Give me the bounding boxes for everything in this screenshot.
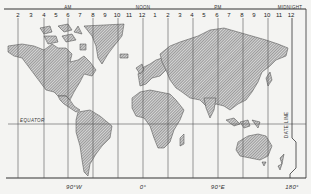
- longitude-label-180: 180°: [285, 184, 299, 190]
- india: [204, 98, 216, 118]
- tasmania: [262, 162, 266, 166]
- north-america: [8, 44, 96, 100]
- south-america: [76, 110, 112, 176]
- arctic-islands: [40, 24, 86, 50]
- hour-label: 9: [252, 12, 255, 18]
- hour-label: 4: [190, 12, 193, 18]
- date-line: [290, 18, 296, 178]
- hour-label: 8: [240, 12, 243, 18]
- madagascar: [180, 134, 184, 146]
- new-zealand: [278, 154, 284, 170]
- hour-label: 10: [114, 12, 121, 18]
- hour-label: 11: [126, 12, 132, 18]
- hour-label: 3: [29, 12, 32, 18]
- hour-label: 5: [54, 12, 57, 18]
- midnight-label: MIDNIGHT: [278, 5, 303, 10]
- asia: [160, 28, 288, 110]
- hour-label: 12: [139, 12, 146, 18]
- hour-label: 7: [227, 12, 230, 18]
- longitude-label-90e: 90°E: [211, 184, 225, 190]
- hour-label: 2: [166, 12, 169, 18]
- longitude-label-90w: 90°W: [66, 184, 82, 190]
- hour-label: 7: [78, 12, 81, 18]
- hour-label: 4: [42, 12, 45, 18]
- japan: [266, 72, 272, 86]
- hour-label: 6: [215, 12, 218, 18]
- hour-label: 8: [91, 12, 94, 18]
- hour-label: 11: [276, 12, 282, 18]
- hour-label: 3: [178, 12, 181, 18]
- date-line-label: DATE LINE: [284, 111, 289, 138]
- am-label: AM: [64, 5, 71, 10]
- equator-label: EQUATOR: [20, 118, 45, 123]
- world-map: [0, 0, 311, 194]
- hour-label: 5: [202, 12, 205, 18]
- hour-label: 1: [153, 12, 156, 18]
- hour-label: 10: [264, 12, 271, 18]
- land-masses: [8, 24, 288, 176]
- australia: [236, 134, 272, 160]
- pm-label: PM: [214, 5, 221, 10]
- africa: [132, 90, 184, 148]
- noon-label: NOON: [136, 5, 151, 10]
- hour-label: 9: [103, 12, 106, 18]
- iceland: [120, 54, 128, 58]
- hour-label: 6: [66, 12, 69, 18]
- hour-label: 2: [16, 12, 19, 18]
- hour-label: 12: [288, 12, 295, 18]
- longitude-label-0: 0°: [140, 184, 146, 190]
